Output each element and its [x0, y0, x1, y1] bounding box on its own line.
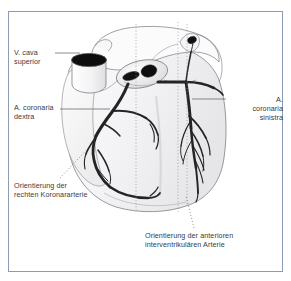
label-orientierung-rechte-koronararterie: Orientierung der rechten Koronararterie — [14, 181, 88, 199]
label-orientierung-anteriore-interventrikulaere-arterie: Orientierung der anterioren interventrik… — [145, 231, 233, 249]
label-vena-cava-superior: V. cava superior — [14, 48, 41, 66]
label-a-coronaria-sinistra: A. coronaria sinistra — [252, 95, 283, 123]
label-a-coronaria-dextra: A. coronaria dextra — [14, 103, 54, 121]
figure-root: V. cava superior A. coronaria dextra A. … — [0, 0, 291, 281]
